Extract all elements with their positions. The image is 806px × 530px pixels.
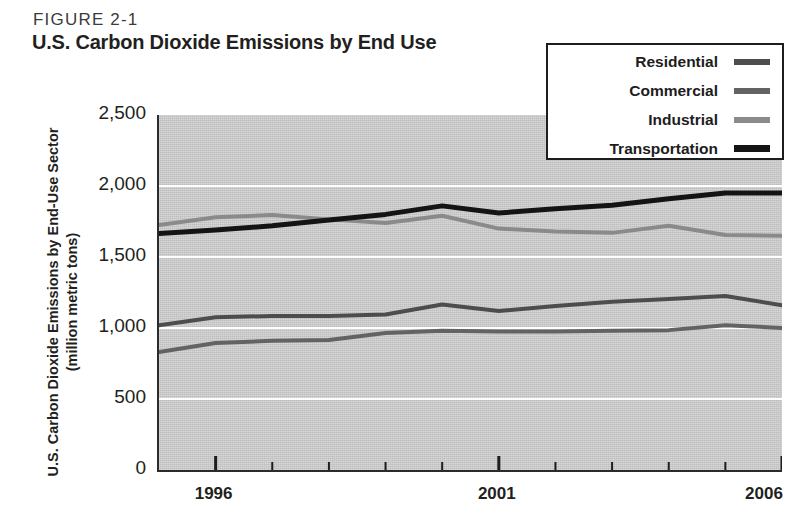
legend-item-transportation[interactable]: Transportation (548, 136, 782, 161)
legend-item-label: Industrial (648, 111, 718, 129)
y-tick-label: 1,500 (60, 244, 146, 266)
y-tick-label: 1,000 (60, 315, 146, 337)
legend-item-label: Transportation (609, 140, 718, 158)
x-tick-label: 2006 (745, 484, 783, 504)
y-tick-label: 500 (60, 386, 146, 408)
plot-area (157, 115, 782, 472)
legend-item-label: Residential (635, 53, 718, 71)
legend-item-swatch (734, 145, 770, 152)
series-line-commercial (159, 325, 782, 352)
legend-item-label: Commercial (629, 82, 718, 100)
legend-item-residential[interactable]: Residential (548, 49, 782, 74)
y-tick-label: 2,000 (60, 173, 146, 195)
x-tick-label: 2001 (478, 484, 516, 504)
legend-item-industrial[interactable]: Industrial (548, 107, 782, 132)
legend-item-swatch (734, 117, 770, 123)
chart-lines (159, 115, 782, 470)
series-line-residential (159, 296, 782, 325)
y-tick-label: 0 (60, 457, 146, 479)
legend-item-swatch (734, 59, 770, 65)
legend-item-swatch (734, 88, 770, 94)
chart-legend: ResidentialCommercialIndustrialTransport… (546, 43, 784, 160)
x-axis-tick-labels: 199620012006 (0, 484, 806, 514)
y-tick-label: 2,500 (60, 102, 146, 124)
y-axis-tick-labels: 2,5002,0001,5001,0005000 (52, 0, 146, 530)
x-tick-label: 1996 (195, 484, 233, 504)
legend-item-commercial[interactable]: Commercial (548, 78, 782, 103)
